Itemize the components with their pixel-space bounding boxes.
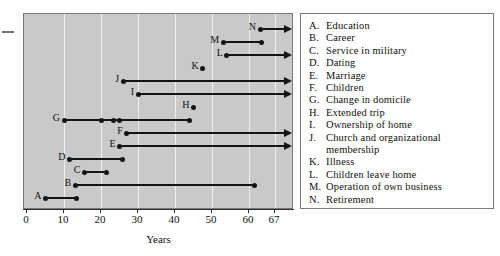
legend-label: Extended trip — [326, 107, 489, 119]
bar-label-I: I — [114, 86, 134, 97]
gridline-20 — [101, 14, 102, 208]
legend-key: J. — [309, 132, 326, 144]
legend-key: A. — [309, 20, 326, 32]
legend-key: F. — [309, 82, 326, 94]
legend-key: M. — [309, 181, 326, 193]
legend-label: Illness — [326, 156, 489, 168]
chart-figure: NMLKJIHGFEDCBA 010203040506067 Years A.E… — [0, 0, 500, 256]
legend-item-C: C.Service in military — [309, 45, 489, 57]
bar-endpoint-dot — [74, 196, 79, 201]
legend-item-E: E.Marriage — [309, 70, 489, 82]
bar-segment — [223, 41, 262, 43]
bar-label-G: G — [40, 112, 60, 123]
x-tick-label-10: 10 — [51, 213, 75, 225]
bar-label-F: F — [103, 125, 123, 136]
bar-label-A: A — [22, 190, 42, 201]
legend-key: K. — [309, 156, 326, 168]
bar-label-K: K — [179, 60, 199, 71]
x-tick-label-40: 40 — [162, 213, 186, 225]
bar-endpoint-dot — [82, 170, 87, 175]
legend-item-M: M.Operation of own business — [309, 181, 489, 193]
plot-area: NMLKJIHGFEDCBA — [24, 14, 292, 208]
plot-panel: NMLKJIHGFEDCBA — [23, 13, 293, 209]
legend-label: Operation of own business — [326, 181, 489, 193]
legend-label: Education — [326, 20, 489, 32]
legend-label: Service in military — [326, 45, 489, 57]
margin-dash-mark — [2, 31, 14, 33]
bar-label-J: J — [99, 73, 119, 84]
bar-endpoint-dot — [117, 118, 122, 123]
x-tick-label-67: 67 — [262, 213, 286, 225]
bar-segment — [46, 197, 77, 199]
bar-segment — [70, 158, 123, 160]
legend-item-H: H.Extended trip — [309, 107, 489, 119]
bar-segment — [260, 28, 285, 30]
legend-label: Church and organizational — [326, 132, 489, 144]
bar-arrowhead — [284, 90, 292, 98]
legend-key: G. — [309, 94, 326, 106]
bar-endpoint-dot — [136, 92, 141, 97]
legend-item-F: F.Children — [309, 82, 489, 94]
legend-item-K: K.Illness — [309, 156, 489, 168]
x-tick-label-0: 0 — [14, 213, 38, 225]
legend-label: Change in domicile — [326, 94, 489, 106]
legend-key: N. — [309, 194, 326, 206]
gridline-40 — [175, 14, 176, 208]
legend-label: Ownership of home — [326, 119, 489, 131]
bar-endpoint-dot — [73, 183, 78, 188]
legend-item-N: N.Retirement — [309, 194, 489, 206]
bar-segment — [64, 119, 190, 121]
gridline-30 — [138, 14, 139, 208]
bar-endpoint-dot — [252, 183, 257, 188]
legend-label: Children — [326, 82, 489, 94]
bar-arrowhead — [284, 142, 292, 150]
bar-endpoint-dot — [200, 66, 205, 71]
bar-endpoint-dot — [191, 105, 196, 110]
bar-label-C: C — [60, 164, 80, 175]
bar-endpoint-dot — [99, 118, 104, 123]
bar-endpoint-dot — [117, 144, 122, 149]
bar-endpoint-dot — [258, 27, 263, 32]
bar-endpoint-dot — [187, 118, 192, 123]
x-tick-label-20: 20 — [88, 213, 112, 225]
bar-label-D: D — [46, 151, 66, 162]
legend-panel: A.EducationB.CareerC.Service in military… — [300, 13, 494, 209]
legend-label: Marriage — [326, 70, 489, 82]
legend-key: H. — [309, 107, 326, 119]
x-tick-label-30: 30 — [125, 213, 149, 225]
bar-arrowhead — [284, 77, 292, 85]
bar-segment — [138, 93, 285, 95]
bar-endpoint-dot — [67, 157, 72, 162]
bar-segment — [123, 80, 285, 82]
bar-label-M: M — [199, 34, 219, 45]
gridline-67 — [275, 14, 276, 208]
bar-label-B: B — [51, 177, 71, 188]
legend-list: A.EducationB.CareerC.Service in military… — [309, 20, 489, 206]
bar-endpoint-dot — [259, 40, 264, 45]
legend-key: L. — [309, 169, 326, 181]
legend-item-L: L.Children leave home — [309, 169, 489, 181]
x-tick-label-60: 60 — [236, 213, 260, 225]
legend-label: Dating — [326, 57, 489, 69]
legend-item-I: I.Ownership of home — [309, 119, 489, 131]
bar-endpoint-dot — [124, 131, 129, 136]
bar-label-H: H — [170, 99, 190, 110]
bar-segment — [75, 184, 254, 186]
bar-endpoint-dot — [224, 53, 229, 58]
bar-segment — [120, 145, 286, 147]
legend-item-D: D.Dating — [309, 57, 489, 69]
bar-segment — [227, 54, 285, 56]
legend-label: Children leave home — [326, 169, 489, 181]
bar-endpoint-dot — [120, 157, 125, 162]
legend-key: I. — [309, 119, 326, 131]
bar-arrowhead — [284, 51, 292, 59]
bar-endpoint-dot — [104, 170, 109, 175]
bar-arrowhead — [284, 129, 292, 137]
legend-key: C. — [309, 45, 326, 57]
bar-arrowhead — [284, 25, 292, 33]
legend-item-J: J.Church and organizational — [309, 132, 489, 144]
legend-key: D. — [309, 57, 326, 69]
legend-key: E. — [309, 70, 326, 82]
x-axis-title: Years — [23, 233, 294, 245]
legend-label-continuation: membership — [326, 144, 489, 156]
